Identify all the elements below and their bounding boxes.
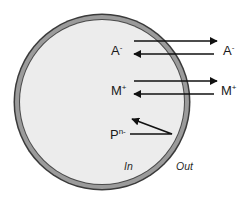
cell-cytoplasm <box>20 20 184 184</box>
cell <box>14 14 191 191</box>
cation-outside-label: M+ <box>221 83 237 98</box>
anion-outside-label: A- <box>223 43 235 58</box>
inside-label: In <box>124 160 133 172</box>
donnan-diagram: A- A- M+ M+ Pn- In Out <box>0 0 250 199</box>
outside-label: Out <box>176 160 194 172</box>
